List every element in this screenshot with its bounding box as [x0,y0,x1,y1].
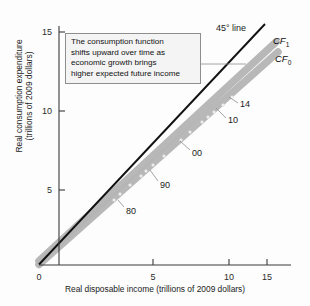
data-point [129,184,132,187]
data-point [145,170,148,173]
annotation-leader-90 [150,170,158,181]
callout-line-4: higher expected future income [71,69,196,80]
x-tick-label-15: 15 [262,272,272,282]
cf1-label: CF1 [273,35,290,48]
data-point [113,199,116,202]
annotation-leader-10 [216,108,226,118]
data-point [163,155,166,158]
data-point [152,164,155,167]
annotation-leader-80 [118,200,124,207]
y-axis-title-line-1: Real consumption expenditure [14,36,24,156]
annotation-leader-14 [229,97,238,103]
cf0-label: CF0 [275,53,292,66]
cf0-label-subscript: 0 [288,59,292,66]
y-tick-label-15: 15 [42,27,52,37]
consumption-function-figure: 15 10 5 0 5 10 15 80 90 00 10 14 45° lin… [0,0,310,306]
annotation-label-14: 14 [240,99,250,109]
callout-line-2: shifts upward over time as [71,48,196,59]
data-point [222,104,225,107]
data-point [189,131,192,134]
x-tick-label-10: 10 [224,272,234,282]
x-axis-title: Real disposable income (trillions of 200… [0,284,310,294]
data-point [180,139,183,142]
cf1-label-subscript: 1 [286,41,290,48]
annotation-label-90: 90 [160,180,170,190]
y-axis-title-line-2: (trillions of 2009 dollars) [24,36,34,156]
annotation-label-00: 00 [192,148,202,158]
data-point [119,193,122,196]
x-axis-title-text: Real disposable income (trillions of 200… [0,284,310,294]
data-point [213,111,216,114]
annotation-leader-00 [180,141,190,150]
data-point [201,121,204,124]
callout-line-3: economic growth brings [71,58,196,69]
annotation-label-80: 80 [126,206,136,216]
callout-line-1: The consumption function [71,37,196,48]
data-point [207,116,210,119]
data-point [140,175,143,178]
callout-box: The consumption function shifts upward o… [65,33,201,84]
y-axis-title: Real consumption expenditure (trillions … [14,36,34,156]
forty-five-degree-line-label: 45° line [216,23,246,33]
y-tick-label-5: 5 [47,185,52,195]
x-tick-label-0: 0 [36,272,41,282]
x-tick-label-5: 5 [150,272,155,282]
y-tick-label-10: 10 [42,106,52,116]
annotation-label-10: 10 [228,115,238,125]
